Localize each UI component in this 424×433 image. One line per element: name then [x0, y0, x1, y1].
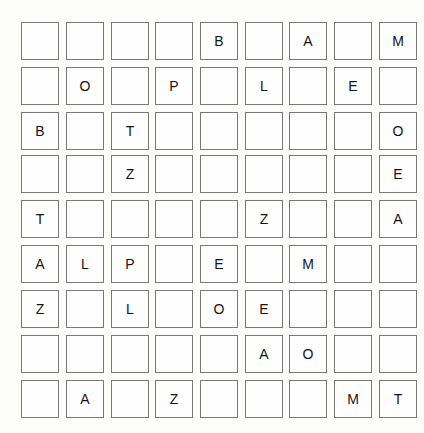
letter-cell-empty[interactable] [21, 335, 59, 373]
block-r1c2: BPL [155, 22, 283, 150]
block-r2c2: ZE [155, 155, 283, 283]
letter-cell-filled[interactable]: O [66, 67, 104, 105]
letter-cell-empty[interactable] [21, 380, 59, 418]
letter-cell-filled[interactable]: E [245, 290, 283, 328]
letter-cell-filled[interactable]: O [379, 112, 417, 150]
letter-cell-filled[interactable]: Z [245, 200, 283, 238]
letter-cell-empty[interactable] [155, 22, 193, 60]
letter-cell-empty[interactable] [245, 380, 283, 418]
letter-cell-filled[interactable]: L [66, 245, 104, 283]
letter-cell-empty[interactable] [334, 335, 372, 373]
letter-cell-empty[interactable] [379, 290, 417, 328]
letter-cell-filled[interactable]: Z [155, 380, 193, 418]
letter-cell-empty[interactable] [334, 22, 372, 60]
letter-cell-empty[interactable] [21, 155, 59, 193]
letter-cell-empty[interactable] [66, 155, 104, 193]
letter-cell-empty[interactable] [111, 67, 149, 105]
letter-cell-empty[interactable] [379, 67, 417, 105]
letter-cell-empty[interactable] [111, 380, 149, 418]
block-r2c3: EAM [289, 155, 417, 283]
letter-cell-empty[interactable] [111, 200, 149, 238]
letter-cell-filled[interactable]: L [111, 290, 149, 328]
letter-cell-empty[interactable] [66, 290, 104, 328]
letter-cell-empty[interactable] [66, 200, 104, 238]
block-r3c2: OEAZ [155, 290, 283, 418]
letter-cell-empty[interactable] [200, 155, 238, 193]
letter-cell-filled[interactable]: Z [111, 155, 149, 193]
letter-cell-filled[interactable]: O [200, 290, 238, 328]
letter-cell-empty[interactable] [66, 22, 104, 60]
letter-cell-empty[interactable] [66, 112, 104, 150]
block-r3c3: OMT [289, 290, 417, 418]
letter-cell-filled[interactable]: A [289, 22, 327, 60]
letter-cell-filled[interactable]: E [200, 245, 238, 283]
letter-cell-empty[interactable] [200, 112, 238, 150]
block-r3c1: ZLA [21, 290, 149, 418]
letter-cell-filled[interactable]: A [66, 380, 104, 418]
letter-cell-filled[interactable]: A [245, 335, 283, 373]
letter-cell-filled[interactable]: O [289, 335, 327, 373]
letter-cell-empty[interactable] [111, 22, 149, 60]
letter-cell-empty[interactable] [66, 335, 104, 373]
letter-cell-filled[interactable]: E [334, 67, 372, 105]
letter-cell-empty[interactable] [334, 200, 372, 238]
letter-cell-filled[interactable]: M [334, 380, 372, 418]
letter-cell-filled[interactable]: E [379, 155, 417, 193]
letter-cell-empty[interactable] [334, 155, 372, 193]
block-r1c1: OBT [21, 22, 149, 150]
letter-cell-filled[interactable]: A [379, 200, 417, 238]
letter-cell-filled[interactable]: P [155, 67, 193, 105]
letter-cell-empty[interactable] [155, 245, 193, 283]
letter-grid-puzzle-board: OBTBPLAMEOZTALPZEEAMZLAOEAZOMT [0, 0, 424, 433]
letter-cell-empty[interactable] [245, 245, 283, 283]
letter-cell-empty[interactable] [200, 200, 238, 238]
block-r2c1: ZTALP [21, 155, 149, 283]
letter-cell-filled[interactable]: M [379, 22, 417, 60]
letter-cell-empty[interactable] [21, 22, 59, 60]
letter-cell-empty[interactable] [155, 290, 193, 328]
letter-cell-filled[interactable]: Z [21, 290, 59, 328]
block-r1c3: AMEO [289, 22, 417, 150]
letter-cell-filled[interactable]: L [245, 67, 283, 105]
letter-cell-empty[interactable] [245, 112, 283, 150]
letter-cell-filled[interactable]: T [111, 112, 149, 150]
letter-cell-filled[interactable]: T [21, 200, 59, 238]
letter-cell-empty[interactable] [200, 335, 238, 373]
letter-cell-empty[interactable] [379, 335, 417, 373]
letter-cell-filled[interactable]: M [289, 245, 327, 283]
letter-cell-empty[interactable] [200, 67, 238, 105]
letter-cell-empty[interactable] [245, 155, 283, 193]
letter-cell-filled[interactable]: B [21, 112, 59, 150]
letter-cell-empty[interactable] [334, 112, 372, 150]
letter-cell-empty[interactable] [289, 380, 327, 418]
letter-cell-empty[interactable] [155, 200, 193, 238]
letter-cell-filled[interactable]: A [21, 245, 59, 283]
letter-cell-empty[interactable] [379, 245, 417, 283]
letter-cell-empty[interactable] [289, 290, 327, 328]
letter-cell-empty[interactable] [155, 112, 193, 150]
letter-cell-empty[interactable] [289, 155, 327, 193]
letter-cell-empty[interactable] [111, 335, 149, 373]
letter-cell-filled[interactable]: P [111, 245, 149, 283]
letter-cell-empty[interactable] [334, 245, 372, 283]
letter-cell-empty[interactable] [334, 290, 372, 328]
letter-cell-filled[interactable]: B [200, 22, 238, 60]
letter-cell-empty[interactable] [289, 200, 327, 238]
letter-cell-empty[interactable] [21, 67, 59, 105]
letter-cell-empty[interactable] [245, 22, 283, 60]
letter-cell-empty[interactable] [289, 112, 327, 150]
letter-cell-filled[interactable]: T [379, 380, 417, 418]
letter-cell-empty[interactable] [155, 155, 193, 193]
letter-cell-empty[interactable] [155, 335, 193, 373]
letter-cell-empty[interactable] [200, 380, 238, 418]
letter-cell-empty[interactable] [289, 67, 327, 105]
